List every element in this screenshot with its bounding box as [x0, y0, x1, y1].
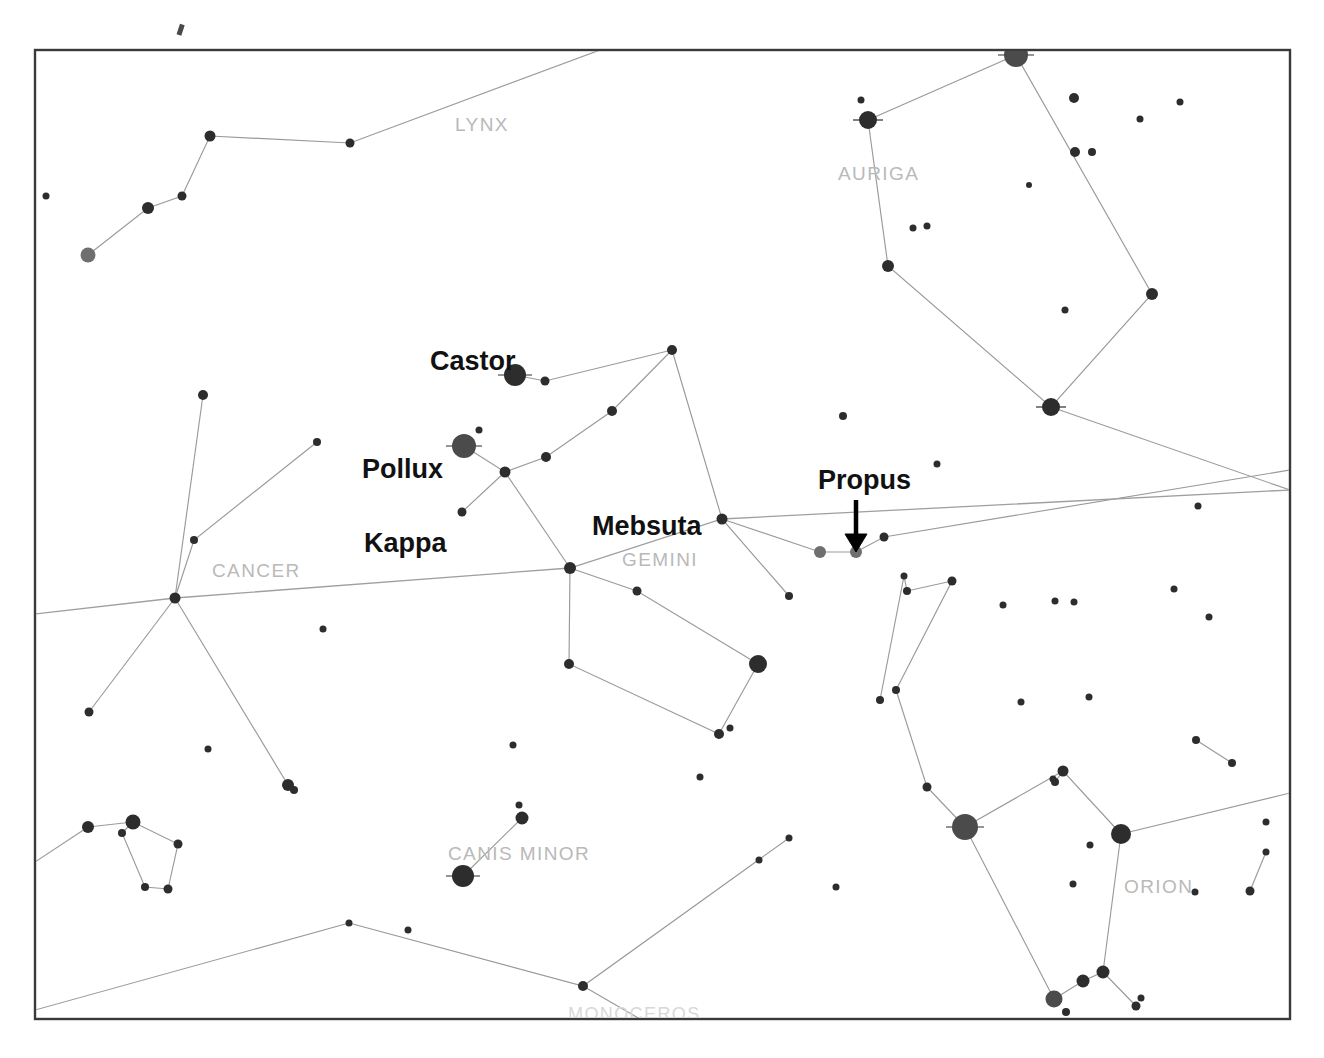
- star-point: [1088, 148, 1096, 156]
- star-point: [81, 248, 96, 263]
- constellation-label-cancer: CANCER: [212, 560, 301, 581]
- corner-tick-mark: [177, 24, 185, 36]
- constellation-label-gemini: GEMINI: [622, 549, 698, 570]
- star-point: [43, 193, 50, 200]
- constellation-label-lynx: LYNX: [455, 114, 509, 135]
- star-point: [1070, 881, 1077, 888]
- star-point: [1195, 503, 1202, 510]
- star-point: [1097, 966, 1110, 979]
- star-point: [1228, 759, 1236, 767]
- clipped-constellation-label: MONOCEROS: [568, 1004, 701, 1024]
- star-point: [405, 927, 412, 934]
- star-point: [1263, 819, 1270, 826]
- constellation-label-orion: ORION: [1124, 876, 1193, 897]
- star-point: [142, 202, 154, 214]
- star-point: [141, 883, 149, 891]
- star-point: [1000, 602, 1007, 609]
- star-point: [82, 821, 94, 833]
- star-label-kappa: Kappa: [364, 528, 448, 558]
- star-point: [923, 783, 932, 792]
- star-point: [901, 573, 908, 580]
- star-point: [541, 377, 550, 386]
- star-point: [858, 97, 865, 104]
- star-point: [190, 536, 198, 544]
- star-point: [500, 467, 511, 478]
- star-point: [118, 829, 126, 837]
- star-point: [1177, 99, 1184, 106]
- star-point: [1086, 694, 1093, 701]
- star-point: [346, 139, 355, 148]
- star-point: [1071, 599, 1078, 606]
- star-point: [786, 835, 793, 842]
- star-point: [178, 192, 187, 201]
- star-point: [1062, 1008, 1070, 1016]
- star-point: [1171, 586, 1178, 593]
- star-point: [1137, 116, 1144, 123]
- star-point: [833, 884, 840, 891]
- star-point: [1146, 288, 1158, 300]
- star-point: [320, 626, 327, 633]
- star-point: [1192, 736, 1200, 744]
- star-point: [633, 587, 642, 596]
- star-point: [1206, 614, 1213, 621]
- star-chart-svg: LYNXAURIGACANCERGEMINICANIS MINORORION M…: [0, 0, 1324, 1058]
- star-point: [516, 802, 523, 809]
- star-point: [452, 865, 474, 887]
- star-point: [452, 434, 476, 458]
- star-point: [839, 412, 847, 420]
- star-chart-container: LYNXAURIGACANCERGEMINICANIS MINORORION M…: [0, 0, 1324, 1058]
- star-point: [476, 427, 483, 434]
- star-point: [903, 587, 911, 595]
- star-point: [948, 577, 957, 586]
- star-point: [814, 546, 826, 558]
- star-point: [126, 815, 141, 830]
- star-point: [749, 655, 767, 673]
- star-point: [1138, 995, 1145, 1002]
- star-point: [541, 452, 551, 462]
- star-point: [1077, 975, 1090, 988]
- star-point: [697, 774, 704, 781]
- star-point: [882, 260, 894, 272]
- star-point: [174, 840, 183, 849]
- star-point: [892, 686, 900, 694]
- star-point: [859, 111, 877, 129]
- star-point: [1042, 398, 1060, 416]
- star-point: [1052, 598, 1059, 605]
- star-point: [924, 223, 931, 230]
- star-label-pollux: Pollux: [362, 454, 443, 484]
- star-point: [952, 814, 978, 840]
- star-point: [785, 592, 793, 600]
- constellation-label-auriga: AURIGA: [838, 163, 919, 184]
- constellation-label-monoceros-clipped: MONOCEROS: [568, 1004, 701, 1024]
- star-point: [1111, 824, 1131, 844]
- star-point: [1050, 776, 1057, 783]
- star-point: [170, 593, 181, 604]
- star-point: [714, 729, 724, 739]
- star-point: [564, 562, 576, 574]
- star-point: [458, 508, 467, 517]
- constellation-label-canis-minor: CANIS MINOR: [448, 843, 590, 864]
- star-point: [934, 461, 941, 468]
- star-point: [564, 659, 574, 669]
- star-label-castor: Castor: [430, 346, 516, 376]
- star-point: [1132, 1002, 1141, 1011]
- star-point: [1026, 182, 1032, 188]
- star-point: [164, 885, 173, 894]
- star-point: [717, 514, 728, 525]
- star-point: [910, 225, 917, 232]
- star-point: [313, 438, 321, 446]
- star-point: [198, 390, 208, 400]
- star-point: [880, 533, 889, 542]
- star-point: [667, 345, 677, 355]
- star-point: [1062, 307, 1069, 314]
- star-point: [578, 981, 588, 991]
- star-point: [876, 696, 884, 704]
- star-point: [290, 786, 298, 794]
- star-point: [1058, 766, 1069, 777]
- star-label-propus: Propus: [818, 465, 911, 495]
- star-point: [205, 131, 216, 142]
- star-point: [756, 857, 763, 864]
- star-point: [1087, 842, 1094, 849]
- star-point: [85, 708, 94, 717]
- star-label-mebsuta: Mebsuta: [592, 511, 703, 541]
